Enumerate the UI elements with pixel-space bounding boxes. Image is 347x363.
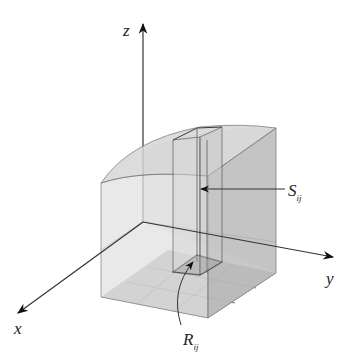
column-prism: [173, 127, 222, 275]
r-ij-label: Rij: [182, 330, 199, 352]
z-axis-label: z: [122, 21, 130, 40]
diagram-canvas: z y x Sij Rij: [0, 0, 347, 363]
y-axis-label: y: [324, 269, 334, 288]
s-ij-label: Sij: [288, 181, 302, 203]
x-axis-label: x: [13, 319, 22, 338]
